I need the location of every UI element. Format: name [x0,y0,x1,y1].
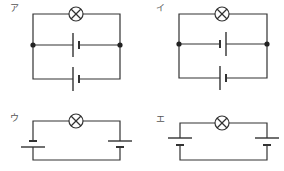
battery-icon [255,138,279,145]
circuit-a [30,7,122,91]
junction-dot [176,41,181,46]
battery-icon [168,138,192,145]
battery-icon [220,32,226,56]
junction-dot [117,42,122,47]
lamp-icon [215,7,229,21]
circuit-d [168,116,279,160]
lamp-icon [215,116,229,130]
lamp-icon [69,114,83,128]
circuit-b-wire [179,14,267,78]
lamp-icon [69,7,83,21]
circuit-c [21,114,132,160]
junction-dot [30,42,35,47]
battery-icon [108,141,132,147]
battery-icon [21,141,45,147]
circuit-diagrams [0,0,284,171]
circuit-a-wire [33,14,120,79]
battery-icon [220,66,226,90]
junction-dot [264,41,269,46]
circuit-b [176,7,269,90]
battery-icon [73,33,79,57]
battery-icon [73,67,79,91]
